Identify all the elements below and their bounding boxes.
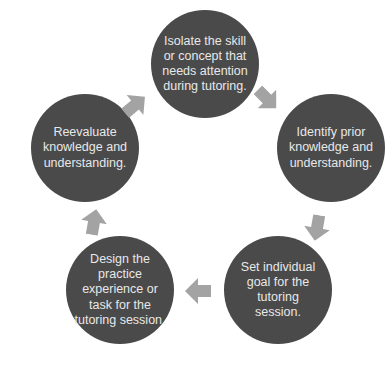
- node-design-practice: Design the practice experience or task f…: [66, 236, 174, 344]
- node-isolate-skill-label: Isolate the skill or concept that needs …: [159, 34, 251, 95]
- arrow-down-icon: [302, 213, 332, 243]
- tutoring-cycle-diagram: Isolate the skill or concept that needs …: [0, 0, 389, 366]
- node-set-goal: Set individual goal for the tutoring ses…: [224, 236, 332, 344]
- node-set-goal-label: Set individual goal for the tutoring ses…: [234, 260, 322, 321]
- node-isolate-skill: Isolate the skill or concept that needs …: [151, 10, 259, 118]
- arrow-left-icon: [185, 278, 211, 304]
- node-identify-prior-knowledge-label: Identify prior knowledge and understandi…: [287, 125, 375, 171]
- node-reevaluate-label: Reevaluate knowledge and understanding.: [41, 125, 129, 171]
- node-design-practice-label: Design the practice experience or task f…: [72, 252, 168, 328]
- arrow-up-icon: [79, 207, 109, 237]
- node-identify-prior-knowledge: Identify prior knowledge and understandi…: [277, 94, 385, 202]
